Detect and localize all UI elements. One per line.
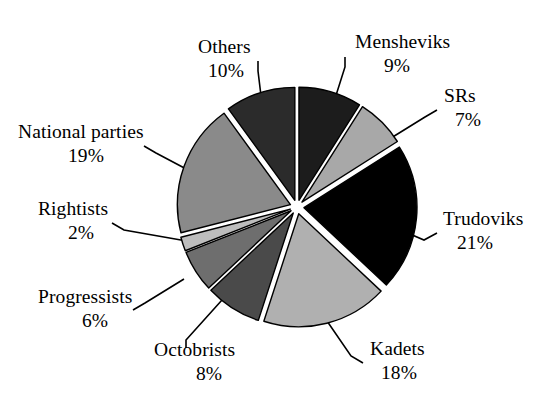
slice-label-trudoviks: Trudoviks [443, 208, 523, 229]
slice-value-srs: 7% [455, 109, 481, 130]
slice-label-others: Others [198, 36, 251, 57]
slice-value-trudoviks: 21% [457, 232, 493, 253]
slice-label-progressists: Progressists [38, 286, 132, 307]
slice-value-progressists: 6% [82, 310, 108, 331]
slice-label-octobrists: Octobrists [154, 339, 235, 360]
pie-chart-figure: Mensheviks9%SRs7%Trudoviks21%Kadets18%Oc… [0, 0, 554, 409]
slice-label-national-parties: National parties [18, 121, 144, 142]
slice-value-others: 10% [208, 60, 244, 81]
slice-label-mensheviks: Mensheviks [355, 31, 450, 52]
pie-chart-svg: Mensheviks9%SRs7%Trudoviks21%Kadets18%Oc… [0, 0, 554, 409]
slice-label-rightists: Rightists [38, 198, 108, 219]
slice-label-kadets: Kadets [370, 338, 425, 359]
slice-value-kadets: 18% [381, 362, 417, 383]
slice-value-octobrists: 8% [196, 363, 222, 384]
slice-value-mensheviks: 9% [384, 55, 410, 76]
slice-value-rightists: 2% [68, 222, 94, 243]
slice-value-national-parties: 19% [68, 145, 104, 166]
slice-label-srs: SRs [444, 85, 476, 106]
